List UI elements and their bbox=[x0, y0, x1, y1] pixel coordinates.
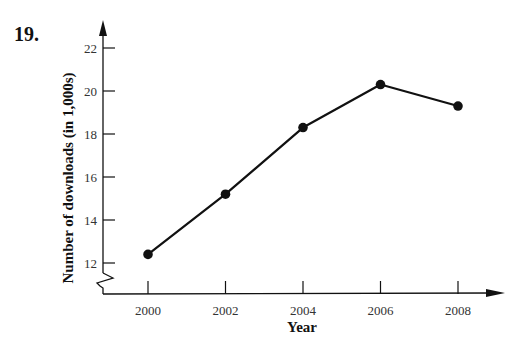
y-axis: 121416182022 bbox=[84, 20, 115, 294]
line-chart: 19. 121416182022 20002002200420062008 Nu… bbox=[0, 0, 523, 347]
data-point bbox=[453, 101, 463, 111]
x-axis-arrow-icon bbox=[486, 289, 505, 297]
x-tick-label: 2008 bbox=[445, 303, 471, 318]
data-point bbox=[298, 123, 308, 133]
x-axis-title: Year bbox=[287, 319, 317, 335]
data-point bbox=[221, 189, 231, 199]
data-point bbox=[376, 80, 386, 90]
data-series bbox=[143, 80, 463, 259]
y-tick-label: 12 bbox=[84, 256, 97, 271]
x-tick-label: 2004 bbox=[290, 303, 317, 318]
y-axis-arrow-icon bbox=[99, 20, 107, 36]
y-tick-label: 14 bbox=[84, 213, 98, 228]
y-tick-label: 22 bbox=[84, 41, 97, 56]
x-tick-label: 2000 bbox=[135, 303, 161, 318]
axis-break-icon bbox=[97, 273, 113, 294]
series-line bbox=[148, 85, 458, 255]
x-tick-label: 2002 bbox=[213, 303, 239, 318]
problem-number: 19. bbox=[14, 23, 39, 45]
y-axis-title: Number of downloads (in 1,000s) bbox=[60, 72, 77, 283]
x-tick-label: 2006 bbox=[368, 303, 395, 318]
y-tick-label: 16 bbox=[84, 170, 98, 185]
y-tick-label: 18 bbox=[84, 127, 97, 142]
x-axis: 20002002200420062008 bbox=[103, 281, 505, 318]
data-point bbox=[143, 250, 153, 260]
y-tick-label: 20 bbox=[84, 84, 97, 99]
